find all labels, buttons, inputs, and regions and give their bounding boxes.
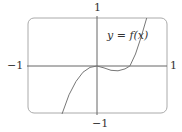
x-max-label: 1 bbox=[170, 60, 177, 71]
x-min-label: −1 bbox=[7, 60, 23, 71]
plot-area bbox=[0, 0, 182, 132]
y-min-label: −1 bbox=[92, 118, 108, 129]
y-max-label: 1 bbox=[94, 2, 101, 13]
function-label: y = f(x) bbox=[107, 29, 148, 42]
